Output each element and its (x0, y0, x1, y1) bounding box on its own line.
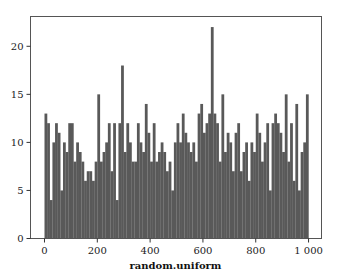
histogram-bars (45, 27, 309, 238)
y-tick-label: 20 (11, 41, 24, 52)
histogram-bar (63, 142, 66, 238)
histogram-bar (79, 152, 82, 238)
histogram-bar (166, 171, 169, 238)
histogram-bar (95, 162, 98, 239)
histogram-bar (60, 190, 63, 238)
histogram-bar (243, 152, 246, 238)
histogram-bar (171, 190, 174, 238)
histogram-bar (221, 94, 224, 238)
histogram-bar (219, 162, 222, 239)
histogram-bar (153, 123, 156, 238)
y-tick-label: 0 (17, 233, 23, 244)
histogram-bar (214, 114, 217, 239)
histogram-bar (132, 162, 135, 239)
histogram-bar (129, 142, 132, 238)
histogram-bar (134, 162, 137, 239)
histogram-bar (245, 142, 248, 238)
histogram-bar (108, 123, 111, 238)
histogram-bar (126, 123, 129, 238)
x-tick-label: 800 (246, 245, 265, 256)
x-axis: 02004006008001 000 (41, 239, 323, 256)
histogram-bar (55, 123, 58, 238)
histogram-bar (306, 94, 309, 238)
histogram-bar (198, 114, 201, 239)
x-tick-label: 600 (193, 245, 212, 256)
histogram-bar (232, 171, 235, 238)
histogram-bar (264, 142, 267, 238)
histogram-bar (89, 171, 92, 238)
histogram-bar (147, 133, 150, 239)
histogram-bar (52, 142, 55, 238)
histogram-bar (285, 94, 288, 238)
histogram-bar (190, 152, 193, 238)
histogram-bar (163, 152, 166, 238)
histogram-bar (66, 152, 69, 238)
histogram-bar (277, 123, 280, 238)
histogram-bar (295, 104, 298, 239)
histogram-bar (179, 142, 182, 238)
histogram-bar (137, 123, 140, 238)
histogram-bar (87, 171, 90, 238)
histogram-bar (206, 123, 209, 238)
x-tick-label: 200 (88, 245, 107, 256)
histogram-bar (105, 142, 108, 238)
histogram-bar (258, 133, 261, 239)
histogram-bar (92, 181, 95, 239)
histogram-bar (248, 181, 251, 239)
histogram-bar (76, 142, 79, 238)
histogram-bar (301, 152, 304, 238)
histogram-bar (195, 162, 198, 239)
histogram-bar (103, 152, 106, 238)
y-axis: 05101520 (11, 41, 31, 244)
histogram-bar (58, 133, 61, 239)
histogram-bar (184, 133, 187, 239)
histogram-bar (150, 162, 153, 239)
histogram-bar (68, 123, 71, 238)
histogram-bar (155, 162, 158, 239)
histogram-bar (266, 123, 269, 238)
histogram-bar (227, 133, 230, 239)
histogram-bar (124, 152, 127, 238)
histogram-bar (187, 142, 190, 238)
histogram-bar (282, 152, 285, 238)
x-tick-label: 400 (141, 245, 160, 256)
histogram-bar (113, 123, 116, 238)
histogram-chart: 05101520 02004006008001 000 random.unifo… (0, 0, 337, 279)
histogram-bar (169, 162, 172, 239)
histogram-bar (45, 114, 48, 239)
histogram-bar (177, 123, 180, 238)
histogram-bar (81, 162, 84, 239)
histogram-bar (84, 181, 87, 239)
histogram-bar (203, 133, 206, 239)
histogram-bar (74, 162, 77, 239)
y-tick-label: 5 (17, 185, 23, 196)
histogram-bar (182, 114, 185, 239)
histogram-bar (250, 142, 253, 238)
histogram-bar (237, 123, 240, 238)
histogram-bar (47, 123, 50, 238)
histogram-bar (50, 200, 53, 238)
histogram-bar (118, 123, 121, 238)
histogram-bar (253, 152, 256, 238)
x-axis-label: random.uniform (130, 260, 222, 271)
histogram-bar (161, 142, 164, 238)
histogram-bar (224, 152, 227, 238)
y-tick-label: 15 (11, 89, 24, 100)
histogram-bar (145, 104, 148, 239)
histogram-bar (235, 133, 238, 239)
histogram-bar (192, 142, 195, 238)
histogram-bar (240, 171, 243, 238)
histogram-bar (269, 190, 272, 238)
histogram-bar (280, 133, 283, 239)
histogram-bar (298, 190, 301, 238)
histogram-bar (229, 142, 232, 238)
histogram-bar (211, 27, 214, 238)
histogram-bar (208, 114, 211, 239)
x-tick-label: 0 (41, 245, 47, 256)
x-tick-label: 1 000 (294, 245, 323, 256)
histogram-bar (71, 123, 74, 238)
histogram-bar (111, 171, 114, 238)
y-tick-label: 10 (11, 137, 24, 148)
histogram-bar (116, 200, 119, 238)
histogram-bar (174, 142, 177, 238)
